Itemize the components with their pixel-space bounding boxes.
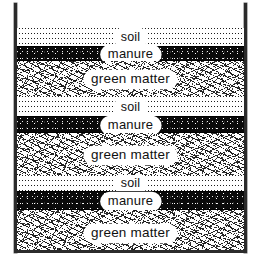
- layer-manure-1: manure: [17, 46, 244, 61]
- layer-soil-1: soil: [17, 28, 244, 46]
- layer-manure-2: manure: [17, 116, 244, 133]
- label-soil-2: soil: [114, 99, 148, 116]
- label-manure-3: manure: [101, 193, 160, 210]
- compost-layer-diagram: soil manure green matter soil manure gre…: [0, 0, 261, 266]
- layer-soil-2: soil: [17, 96, 244, 116]
- bin-wall-right: [244, 3, 247, 253]
- layer-soil-3: soil: [17, 175, 244, 191]
- label-soil-3: soil: [114, 175, 148, 191]
- label-soil-1: soil: [114, 29, 148, 46]
- layer-stack: soil manure green matter soil manure gre…: [17, 28, 244, 250]
- label-green-matter-3: green matter: [84, 225, 177, 242]
- layer-green-matter-1: green matter: [17, 61, 244, 96]
- layer-green-matter-2: green matter: [17, 133, 244, 175]
- layer-green-matter-3: green matter: [17, 210, 244, 250]
- label-green-matter-2: green matter: [84, 147, 177, 164]
- label-manure-2: manure: [101, 117, 160, 133]
- label-manure-1: manure: [101, 46, 160, 61]
- label-green-matter-1: green matter: [84, 71, 177, 88]
- bin-floor: [14, 250, 247, 253]
- layer-manure-3: manure: [17, 191, 244, 210]
